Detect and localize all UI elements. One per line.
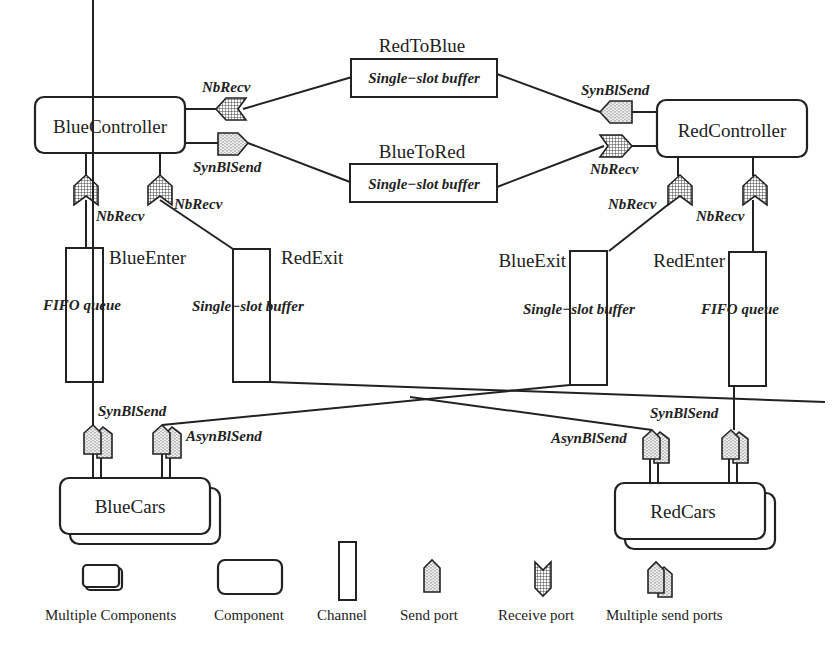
channel-type: FIFO queue — [700, 301, 779, 317]
port-label: NbRecv — [201, 79, 251, 95]
channel-type: Single−slot buffer — [523, 301, 635, 317]
channel-red-enter[interactable]: RedEnter FIFO queue — [653, 250, 779, 386]
channel-blue-enter[interactable]: BlueEnter FIFO queue — [42, 247, 187, 382]
channel-name: BlueExit — [498, 250, 566, 271]
blue-cars[interactable]: BlueCars — [60, 478, 220, 544]
port-label: NbRecv — [173, 196, 223, 212]
legend-send-port: Send port — [400, 560, 459, 623]
channel-name: RedExit — [281, 247, 344, 268]
blue-controller[interactable]: BlueController — [35, 97, 185, 153]
legend-label: Receive port — [498, 607, 575, 623]
red-cars-label: RedCars — [650, 501, 715, 522]
legend-label: Send port — [400, 607, 459, 623]
channel-name: BlueToRed — [379, 141, 466, 162]
channel-red-to-blue[interactable]: RedToBlue Single−slot buffer — [351, 35, 497, 97]
send-port-icon — [600, 101, 632, 123]
send-port-icon — [84, 425, 101, 454]
channel-type: FIFO queue — [42, 297, 121, 313]
legend-receive-port: Receive port — [498, 562, 575, 623]
port-label: SynBlSend — [193, 159, 262, 175]
channel-type: Single−slot buffer — [368, 176, 480, 192]
red-cars[interactable]: RedCars — [615, 483, 775, 549]
red-controller[interactable]: RedController — [657, 100, 807, 157]
legend-label: Multiple send ports — [606, 607, 723, 623]
receive-port-icon — [535, 562, 551, 596]
send-port-icon — [648, 562, 664, 593]
legend-component: Component — [214, 560, 285, 623]
channel-name: RedEnter — [653, 250, 725, 271]
send-port-bc-synblsend[interactable]: SynBlSend — [193, 133, 262, 175]
channel-type: Single−slot buffer — [192, 298, 304, 314]
port-label: SynBlSend — [650, 405, 719, 421]
send-port-icon — [424, 560, 440, 592]
legend-channel: Channel — [317, 542, 367, 623]
multi-send-port-bcars-asynblsend[interactable]: AsynBlSend — [153, 425, 262, 478]
multi-send-port-rcars-asynblsend[interactable]: AsynBlSend — [550, 430, 669, 483]
receive-port-icon — [600, 135, 632, 157]
receive-port-rc-left[interactable]: NbRecv — [607, 175, 692, 212]
receive-port-rc-right[interactable]: NbRecv — [695, 175, 767, 224]
send-port-rc-synblsend[interactable]: SynBlSend — [581, 82, 650, 123]
channel-type: Single−slot buffer — [368, 70, 480, 86]
legend-label: Multiple Components — [45, 607, 176, 623]
channel-red-exit[interactable]: RedExit Single−slot buffer — [192, 247, 344, 382]
send-port-icon — [643, 430, 660, 459]
channel-blue-to-red[interactable]: BlueToRed Single−slot buffer — [350, 141, 497, 202]
channel-blue-exit[interactable]: BlueExit Single−slot buffer — [498, 250, 634, 385]
port-label: SynBlSend — [98, 403, 167, 419]
receive-port-icon — [216, 98, 246, 120]
channel-name: BlueEnter — [109, 247, 187, 268]
red-controller-label: RedController — [678, 120, 787, 141]
port-label: AsynBlSend — [185, 428, 262, 444]
send-port-icon — [153, 425, 170, 454]
receive-port-bc-right[interactable]: NbRecv — [148, 175, 223, 212]
blue-controller-label: BlueController — [53, 116, 168, 137]
legend-label: Component — [214, 607, 285, 623]
multi-send-port-bcars-synblsend[interactable]: SynBlSend — [84, 0, 167, 478]
receive-port-bc-top[interactable]: NbRecv — [201, 79, 251, 120]
receive-port-icon — [668, 175, 692, 205]
channel-name: RedToBlue — [379, 35, 465, 56]
port-label: NbRecv — [95, 208, 145, 224]
receive-port-icon — [743, 175, 767, 205]
legend-multiple-components: Multiple Components — [45, 565, 176, 623]
port-label: AsynBlSend — [550, 430, 627, 446]
port-label: SynBlSend — [581, 82, 650, 98]
legend-multiple-send-ports: Multiple send ports — [606, 562, 723, 623]
port-label: NbRecv — [589, 161, 639, 177]
port-label: NbRecv — [695, 208, 745, 224]
send-port-icon — [218, 133, 248, 155]
port-label: NbRecv — [607, 196, 657, 212]
legend: Multiple Components Component Channel Se… — [45, 542, 723, 623]
blue-cars-label: BlueCars — [95, 496, 166, 517]
send-port-icon — [722, 430, 739, 459]
receive-port-rc-side[interactable]: NbRecv — [589, 135, 639, 177]
receive-port-bc-left[interactable]: NbRecv — [74, 175, 145, 224]
legend-label: Channel — [317, 607, 367, 623]
architecture-diagram: BlueController RedController BlueCars Re… — [0, 0, 835, 659]
